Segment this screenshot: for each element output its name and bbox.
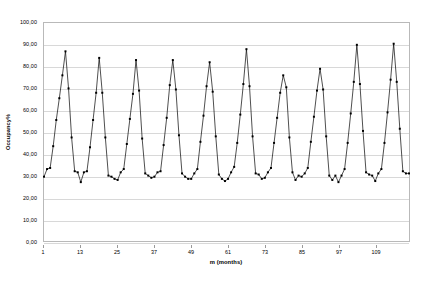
data-point-marker [83, 171, 85, 173]
data-point-marker [301, 176, 303, 178]
gridline [44, 243, 409, 244]
x-axis-tick-labels: 11325374961738597109 [43, 245, 410, 257]
data-point-marker [362, 130, 364, 132]
data-point-marker [337, 181, 339, 183]
data-point-marker [209, 61, 211, 63]
data-point-marker [233, 166, 235, 168]
y-axis-tick-label: 70,00 [23, 85, 37, 91]
data-point-marker [138, 90, 140, 92]
data-point-marker [199, 141, 201, 143]
x-axis-tick-mark [191, 245, 192, 248]
data-point-marker [156, 171, 158, 173]
data-point-marker [178, 134, 180, 136]
data-point-marker [126, 143, 128, 145]
data-point-marker [371, 175, 373, 177]
x-axis-title: m (months) [210, 259, 243, 265]
series-line [44, 44, 409, 182]
data-point-marker [144, 172, 146, 174]
data-point-marker [359, 83, 361, 85]
data-point-marker [221, 178, 223, 180]
data-point-marker [399, 128, 401, 130]
data-point-marker [405, 172, 407, 174]
data-point-marker [218, 174, 220, 176]
data-point-marker [328, 175, 330, 177]
data-point-marker [212, 91, 214, 93]
y-axis-tick-label: 80,00 [23, 63, 37, 69]
x-axis-tick-mark [117, 245, 118, 248]
x-axis-tick-label: 13 [77, 249, 83, 255]
data-point-marker [150, 177, 152, 179]
data-point-marker [172, 59, 174, 61]
data-point-marker [298, 175, 300, 177]
x-axis-tick-mark [43, 245, 44, 248]
data-point-marker [71, 136, 73, 138]
data-point-marker [55, 119, 57, 121]
data-point-marker [147, 175, 149, 177]
y-axis-tick-label: 50,00 [23, 129, 37, 135]
data-point-marker [239, 114, 241, 116]
data-point-marker [282, 74, 284, 76]
data-point-marker [98, 57, 100, 59]
x-axis-tick-label: 109 [372, 249, 381, 255]
data-point-marker [313, 116, 315, 118]
data-point-marker [249, 85, 251, 87]
data-point-marker [390, 79, 392, 81]
data-point-marker [190, 178, 192, 180]
data-point-marker [46, 168, 48, 170]
data-point-marker [86, 170, 88, 172]
data-point-marker [141, 138, 143, 140]
data-point-marker [291, 171, 293, 173]
data-point-marker [110, 176, 112, 178]
data-point-marker [107, 175, 109, 177]
y-axis-tick-label: 60,00 [23, 107, 37, 113]
x-axis-tick-mark [265, 245, 266, 248]
x-axis-tick-mark [376, 245, 377, 248]
data-point-marker [252, 135, 254, 137]
x-axis-tick-label: 85 [299, 249, 305, 255]
data-point-marker [224, 180, 226, 182]
data-point-marker [368, 174, 370, 176]
data-point-marker [95, 92, 97, 94]
data-point-marker [132, 93, 134, 95]
data-point-marker [396, 81, 398, 83]
data-point-marker [402, 170, 404, 172]
data-point-marker [356, 44, 358, 46]
occupancy-line-chart: Occupancy% 100,0090,0080,0070,0060,0050,… [0, 0, 431, 281]
data-point-marker [184, 176, 186, 178]
data-point-marker [319, 68, 321, 70]
data-point-marker [264, 177, 266, 179]
data-point-marker [77, 171, 79, 173]
data-point-marker [74, 170, 76, 172]
data-point-marker [387, 111, 389, 113]
plot-area [43, 22, 410, 242]
data-point-marker [215, 135, 217, 137]
data-point-marker [160, 170, 162, 172]
x-axis-tick-label: 49 [188, 249, 194, 255]
occupancy-series [44, 23, 409, 241]
data-point-marker [380, 168, 382, 170]
data-point-marker [187, 178, 189, 180]
data-point-marker [175, 88, 177, 90]
y-axis-tick-label: 10,00 [23, 217, 37, 223]
data-point-marker [255, 172, 257, 174]
data-point-marker [374, 180, 376, 182]
data-point-marker [92, 119, 94, 121]
data-point-marker [334, 175, 336, 177]
data-point-marker [58, 97, 60, 99]
data-point-marker [331, 179, 333, 181]
data-point-marker [230, 171, 232, 173]
data-point-marker [236, 142, 238, 144]
data-point-marker [104, 136, 106, 138]
x-axis-tick-mark [302, 245, 303, 248]
data-point-marker [135, 59, 137, 61]
data-point-marker [316, 90, 318, 92]
data-point-marker [288, 136, 290, 138]
data-point-marker [347, 142, 349, 144]
data-point-marker [242, 83, 244, 85]
data-point-marker [43, 176, 45, 178]
data-point-marker [68, 87, 70, 89]
data-point-marker [52, 145, 54, 147]
data-point-marker [273, 142, 275, 144]
data-point-marker [270, 167, 272, 169]
data-point-marker [203, 115, 205, 117]
